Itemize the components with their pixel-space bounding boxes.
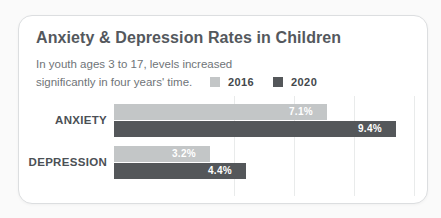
chart-legend: 2016 2020 [210,76,336,88]
gridline-10pct [414,96,415,196]
category-label-anxiety: ANXIETY [19,114,107,126]
legend-label-2016: 2016 [228,76,254,88]
chart-subtitle: In youth ages 3 to 17, levels increased … [36,55,232,91]
gridline-8pct [354,96,355,196]
bar-value-label: 9.4% [114,121,396,137]
category-label-depression: DEPRESSION [19,156,107,168]
bar-anxiety-2016: 7.1% [114,104,327,120]
bar-value-label: 3.2% [114,146,210,162]
legend-swatch-2020 [273,77,283,87]
chart-subtitle-line-1: In youth ages 3 to 17, levels increased [36,55,232,73]
chart-subtitle-line-2: significantly in four years' time. [36,73,232,91]
bar-value-label: 7.1% [114,104,327,120]
bar-value-label: 4.4% [114,163,246,179]
bar-depression-2020: 4.4% [114,163,246,179]
chart-card: Anxiety & Depression Rates in Children I… [18,15,428,204]
chart-title: Anxiety & Depression Rates in Children [36,29,341,47]
bar-anxiety-2020: 9.4% [114,121,396,137]
legend-label-2020: 2020 [291,76,317,88]
bar-depression-2016: 3.2% [114,146,210,162]
legend-swatch-2016 [210,77,220,87]
